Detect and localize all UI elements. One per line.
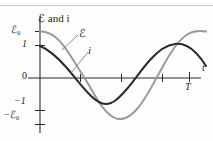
curve-label-current: i <box>88 45 91 56</box>
curve-label-emf: ℰ <box>79 28 86 39</box>
current-curve <box>40 44 206 104</box>
y-tick-label-neg-emf0: −ℰ₀ <box>4 110 19 120</box>
axis-title-label: ℰ and i <box>38 13 69 24</box>
y-tick-label-zero: 0 <box>22 71 27 81</box>
y-tick-label-emf0: ℰ₀ <box>11 25 21 35</box>
plot-canvas <box>0 0 213 141</box>
emf-leader-line <box>62 35 78 50</box>
y-tick-label-neg-one: −1 <box>14 96 26 106</box>
x-tick-marks <box>81 72 190 82</box>
x-axis-label-t: t <box>202 63 205 73</box>
x-tick-label-period: T <box>185 82 191 92</box>
y-tick-label-one: 1 <box>22 39 27 49</box>
physics-figure-emf-and-current: ℰ and i ℰ₀ 1 0 −1 −ℰ₀ T t ℰ i <box>0 0 213 141</box>
